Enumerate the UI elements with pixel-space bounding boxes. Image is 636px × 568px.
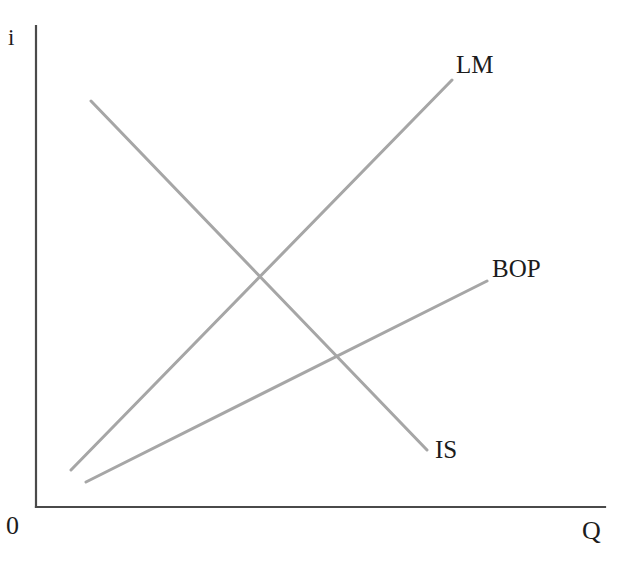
is-curve-label: IS xyxy=(435,437,457,462)
origin-label: 0 xyxy=(6,513,19,539)
is-lm-bop-diagram: i 0 Q LM BOP IS xyxy=(0,0,636,568)
x-axis-label: Q xyxy=(582,518,601,544)
bop-curve-label: BOP xyxy=(492,256,541,281)
bop-curve xyxy=(86,281,487,482)
y-axis-label: i xyxy=(8,26,14,49)
chart-canvas xyxy=(0,0,636,568)
lm-curve-label: LM xyxy=(456,52,494,77)
